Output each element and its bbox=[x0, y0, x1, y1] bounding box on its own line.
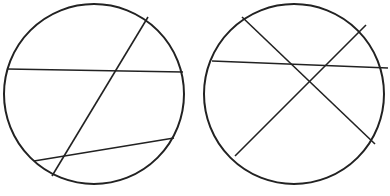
right-chord-1 bbox=[212, 61, 388, 68]
right-circle bbox=[204, 4, 384, 184]
left-circle bbox=[4, 4, 184, 184]
right-circle-group bbox=[204, 4, 388, 184]
left-chord-2 bbox=[52, 17, 148, 176]
right-chord-3 bbox=[235, 25, 366, 156]
diagram-canvas: Two circles divided by chords bbox=[0, 0, 390, 196]
left-circle-group bbox=[4, 4, 184, 184]
circles-figure bbox=[0, 0, 390, 196]
left-chord-3 bbox=[34, 138, 174, 161]
left-chord-1 bbox=[7, 69, 183, 72]
